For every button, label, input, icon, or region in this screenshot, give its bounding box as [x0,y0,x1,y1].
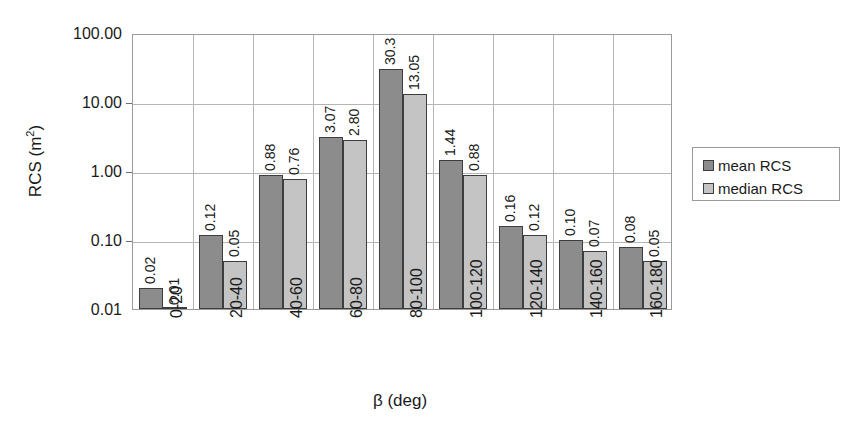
legend-swatch-mean [703,160,714,171]
bar-mean-rcs [259,175,283,309]
bar-value-label: 13.05 [407,55,421,90]
bar-value-label: 1.44 [443,129,457,156]
bar-mean-rcs [559,240,583,309]
bar-mean-rcs [319,137,343,309]
bar-value-label: 30.3 [383,38,397,65]
gridline-vertical [433,35,434,309]
bar-mean-rcs [379,69,403,309]
bar-value-label: 0.08 [623,215,637,242]
x-axis-tick-label: 120-140 [529,259,545,318]
y-axis-tick-label: 10.00 [48,95,122,111]
legend: mean RCSmedian RCS [692,147,840,201]
y-axis-tick-label: 1.00 [48,164,122,180]
bar-mean-rcs [199,235,223,309]
y-axis-tick-label: 0.01 [48,302,122,318]
bar-value-label: 0.05 [647,230,661,257]
legend-item: mean RCS [703,156,791,174]
legend-item: median RCS [703,179,803,197]
x-axis-tick-label: 100-120 [469,259,485,318]
x-axis-tick-label: 20-40 [229,277,245,318]
rcs-bar-chart-figure: RCS (m2) 100.0010.001.000.100.01 0.020.0… [0,0,855,434]
bar-value-label: 2.80 [347,109,361,136]
bar-value-label: 0.07 [587,219,601,246]
y-axis-title: RCS (m2) [18,91,42,231]
bar-mean-rcs [139,288,163,309]
x-axis-tick-label: 80-100 [409,268,425,318]
y-axis-tick-label: 0.10 [48,233,122,249]
gridline-vertical [313,35,314,309]
bar-mean-rcs [619,247,643,309]
bar-value-label: 0.88 [263,144,277,171]
x-axis-tick-label: 160-180 [649,259,665,318]
legend-label: mean RCS [718,158,791,173]
bar-value-label: 0.02 [143,257,157,284]
gridline-vertical [253,35,254,309]
legend-label: median RCS [718,181,803,196]
x-axis-tick-label: 60-80 [349,277,365,318]
gridline-vertical [553,35,554,309]
bar-value-label: 0.12 [203,203,217,230]
bar-value-label: 3.07 [323,106,337,133]
bar-mean-rcs [499,226,523,309]
x-axis-tick-label: 140-160 [589,259,605,318]
x-axis-title: β (deg) [330,391,470,411]
y-axis-title-superscript: 2 [24,131,36,137]
gridline-vertical [613,35,614,309]
bar-value-label: 0.76 [287,148,301,175]
y-axis-tick-label: 100.00 [48,26,122,42]
x-axis-tick-label: 40-60 [289,277,305,318]
bar-value-label: 0.10 [563,209,577,236]
bar-value-label: 0.88 [467,144,481,171]
bar-value-label: 0.12 [527,203,541,230]
legend-swatch-median [703,183,714,194]
bar-mean-rcs [439,160,463,309]
gridline-vertical [493,35,494,309]
gridline-vertical [373,35,374,309]
bar-value-label: 0.05 [227,230,241,257]
gridline-vertical [193,35,194,309]
bar-value-label: 0.16 [503,195,517,222]
x-axis-tick-label: 0-20 [169,286,185,318]
